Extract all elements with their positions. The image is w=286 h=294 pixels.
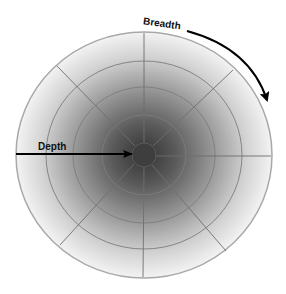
depth-breadth-diagram: Depth Breadth — [0, 0, 286, 294]
breadth-label: Breadth — [142, 15, 181, 31]
depth-label: Depth — [38, 141, 66, 152]
center-circle — [132, 143, 156, 167]
